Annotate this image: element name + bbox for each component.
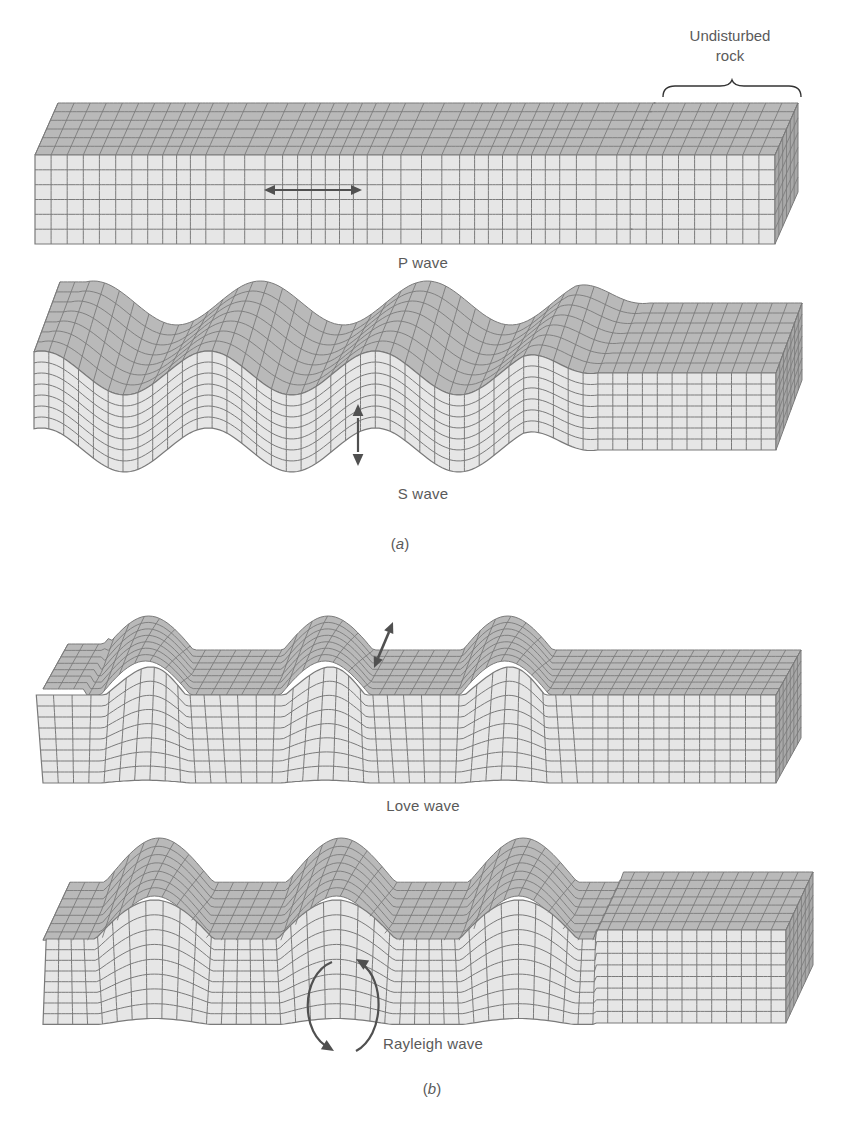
love-wave-block-diagram xyxy=(0,600,847,830)
p-wave-panel: P wave xyxy=(0,0,847,280)
part-b-label: (b) xyxy=(402,1080,462,1097)
rayleigh-wave-caption: Rayleigh wave xyxy=(333,1035,533,1052)
love-wave-caption: Love wave xyxy=(323,797,523,814)
p-wave-caption: P wave xyxy=(323,254,523,271)
s-wave-panel: S wave xyxy=(0,280,847,540)
part-a-label: (a) xyxy=(370,535,430,552)
p-wave-block-diagram xyxy=(0,0,847,280)
s-wave-caption: S wave xyxy=(323,485,523,502)
love-wave-panel: Love wave xyxy=(0,600,847,830)
